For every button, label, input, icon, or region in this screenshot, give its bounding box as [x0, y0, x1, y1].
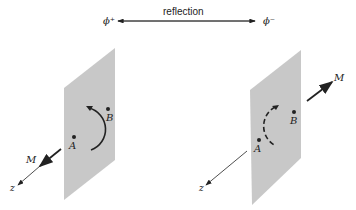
left-label-z: z: [9, 183, 15, 193]
right-label-z: z: [198, 183, 204, 193]
right-panel: A B M z: [198, 50, 345, 205]
right-z-axis: [206, 151, 247, 185]
left-point-a: [72, 135, 76, 139]
left-plane: [64, 48, 115, 200]
phi-plus-label: ϕ⁺: [103, 15, 115, 26]
right-label-b: B: [289, 115, 297, 126]
left-panel: A B M z: [9, 48, 115, 200]
right-label-a: A: [253, 143, 261, 154]
left-point-b: [106, 107, 110, 111]
left-z-axis: [18, 166, 40, 185]
right-label-m: M: [333, 72, 345, 83]
left-label-a: A: [68, 140, 76, 151]
left-m-vector: [40, 149, 61, 166]
right-point-a: [257, 138, 261, 142]
right-plane: [250, 50, 301, 205]
left-label-b: B: [105, 112, 113, 123]
phi-minus-label: ϕ⁻: [263, 15, 275, 26]
reflection-label: reflection: [163, 6, 204, 17]
right-m-vector: [307, 82, 332, 101]
right-point-b: [292, 110, 296, 114]
left-label-m: M: [25, 154, 37, 165]
reflection-diagram: ϕ⁺ ϕ⁻ reflection A B M z A B M z: [0, 0, 356, 210]
